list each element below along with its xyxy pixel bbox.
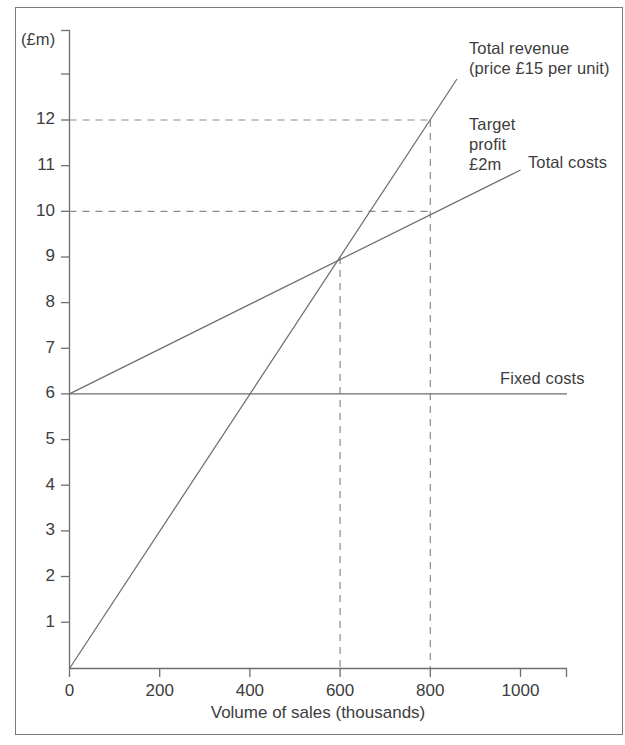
y-tick-label-9: 9 (46, 246, 55, 266)
y-tick-label-5: 5 (46, 429, 55, 449)
x-tick-label-400: 400 (236, 681, 264, 701)
y-axis-unit-label: (£m) (21, 29, 55, 49)
y-tick-label-10: 10 (36, 201, 55, 221)
y-tick-label-7: 7 (46, 338, 55, 358)
series-total-revenue (70, 79, 458, 669)
y-tick-label-3: 3 (46, 520, 55, 540)
x-tick-label-600: 600 (326, 681, 354, 701)
y-axis (61, 30, 70, 669)
y-tick-label-8: 8 (46, 292, 55, 312)
x-axis-title: Volume of sales (thousands) (211, 703, 426, 723)
target-profit-annotation: Target profit £2m (469, 114, 515, 174)
x-tick-label-1000: 1000 (502, 681, 540, 701)
x-tick-label-200: 200 (146, 681, 174, 701)
fixed-costs-annotation: Fixed costs (500, 368, 585, 388)
y-tick-label-12: 12 (36, 109, 55, 129)
x-axis (70, 669, 568, 678)
x-tick-label-800: 800 (416, 681, 444, 701)
y-tick-label-4: 4 (46, 475, 55, 495)
x-tick-label-0: 0 (65, 681, 74, 701)
y-tick-label-6: 6 (46, 383, 55, 403)
y-tick-label-11: 11 (37, 155, 55, 175)
y-tick-label-2: 2 (46, 566, 55, 586)
y-tick-label-1: 1 (46, 612, 55, 632)
series-total-costs (70, 170, 521, 394)
total-revenue-annotation: Total revenue (price £15 per unit) (469, 38, 610, 78)
total-costs-annotation: Total costs (528, 152, 607, 172)
